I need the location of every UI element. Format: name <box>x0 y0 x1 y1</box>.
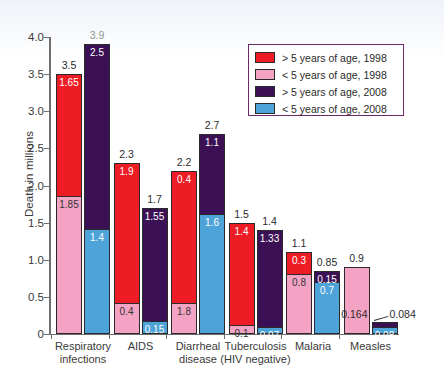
y-tick-label: 2.0 <box>6 180 44 192</box>
y-tick-label: 3.0 <box>6 105 44 117</box>
bar-1998-1-bar[interactable]: 1.90.4 <box>114 163 140 334</box>
segment-value-label: 1.1 <box>200 137 224 148</box>
legend-swatch-icon <box>255 86 275 97</box>
y-axis-ticks: 4.03.53.02.52.01.51.00.50 <box>0 0 44 392</box>
legend-swatch-icon <box>255 69 275 80</box>
y-tick-label: 0 <box>6 328 44 340</box>
segment-value-label: 0.15 <box>143 324 167 335</box>
bar-1998-3-bar[interactable]: 1.40.1 <box>229 223 255 334</box>
bar-1998-4-segment: 0.8 <box>287 275 311 333</box>
measles-2008-total-label: 0.164 <box>341 308 367 320</box>
legend: > 5 years of age, 1998< 5 years of age, … <box>248 44 404 116</box>
bar-total-label: 2.7 <box>205 119 220 131</box>
bar-1998-4-bar[interactable]: 0.30.8 <box>286 252 312 334</box>
legend-item[interactable]: > 5 years of age, 2008 <box>255 84 397 99</box>
y-tick-label: 0.5 <box>6 291 44 303</box>
bar-1998-1-segment: 0.4 <box>115 304 139 333</box>
bar-2008-4-segment: 0.7 <box>315 283 339 333</box>
measles-2008-upper-annotation: 0.084 <box>390 308 416 320</box>
x-tick-mark <box>281 334 282 339</box>
legend-swatch-icon <box>255 52 275 63</box>
bar-total-label: 2.2 <box>177 156 192 168</box>
y-tick-label: 4.0 <box>6 31 44 43</box>
bar-2008-0-segment: 1.4 <box>85 230 109 333</box>
legend-item[interactable]: < 5 years of age, 2008 <box>255 101 397 116</box>
bar-1998-2-segment: 0.4 <box>172 172 196 304</box>
bar-1998-0-bar[interactable]: 1.651.85 <box>56 74 82 334</box>
bar-total-label: 0.85 <box>317 256 337 268</box>
bar-1998-3-segment: 0.1 <box>230 326 254 333</box>
bar-2008-2-segment: 1.1 <box>200 135 224 216</box>
segment-value-label: 0.4 <box>115 306 139 317</box>
bar-1998-3-segment: 1.4 <box>230 224 254 326</box>
x-tick-mark <box>109 334 110 339</box>
y-tick-label: 1.5 <box>6 217 44 229</box>
legend-item-label: > 5 years of age, 2008 <box>282 86 387 98</box>
segment-value-label: 1.6 <box>200 217 224 228</box>
bar-2008-4-segment: 0.15 <box>315 272 339 283</box>
bar-2008-3-bar[interactable]: 1.330.07 <box>257 230 283 334</box>
legend-item-label: > 5 years of age, 1998 <box>282 52 387 64</box>
segment-value-label: 1.8 <box>172 306 196 317</box>
bar-total-label: 1.1 <box>292 237 307 249</box>
legend-item-label: < 5 years of age, 2008 <box>282 103 387 115</box>
y-tick-label: 1.0 <box>6 254 44 266</box>
bar-2008-1-bar[interactable]: 1.550.15 <box>142 208 168 334</box>
x-tick-mark <box>51 334 52 339</box>
bar-2008-5-bar[interactable]: 0.08 <box>372 322 398 334</box>
bar-1998-0-segment: 1.85 <box>57 197 81 333</box>
segment-value-label: 0.7 <box>315 285 339 296</box>
bar-2008-2-segment: 1.6 <box>200 215 224 333</box>
bar-1998-2-segment: 1.8 <box>172 304 196 333</box>
segment-value-label: 1.65 <box>57 77 81 88</box>
segment-value-label: 1.4 <box>85 232 109 243</box>
segment-value-label: 0.8 <box>287 277 311 288</box>
y-tick-label: 3.5 <box>6 68 44 80</box>
bar-total-label: 1.7 <box>147 193 162 205</box>
bar-2008-3-segment: 1.33 <box>258 231 282 328</box>
x-tick-mark <box>166 334 167 339</box>
x-tick-mark <box>339 334 340 339</box>
bar-2008-1-segment: 1.55 <box>143 209 167 322</box>
y-tick-label: 2.5 <box>6 142 44 154</box>
bar-1998-2-bar[interactable]: 0.41.8 <box>171 171 197 334</box>
segment-value-label: 1.85 <box>57 199 81 210</box>
segment-value-label: 0.1 <box>230 328 254 339</box>
infectious-disease-deaths-chart: Death in millions 4.03.53.02.52.01.51.00… <box>0 0 444 392</box>
legend-item[interactable]: < 5 years of age, 1998 <box>255 67 397 82</box>
segment-value-label: 2.5 <box>85 47 109 58</box>
legend-item[interactable]: > 5 years of age, 1998 <box>255 50 397 65</box>
measles-annotation-leader-line <box>373 316 388 321</box>
bar-2008-3-segment: 0.07 <box>258 328 282 333</box>
bar-1998-0-segment: 1.65 <box>57 75 81 197</box>
segment-value-label: 0.4 <box>172 174 196 185</box>
bar-2008-1-segment: 0.15 <box>143 322 167 333</box>
bar-1998-5-bar[interactable] <box>344 267 370 334</box>
bar-1998-1-segment: 1.9 <box>115 164 139 303</box>
bar-1998-5-segment <box>345 268 369 333</box>
x-category-label: Measles <box>331 340 411 353</box>
bar-2008-0-bar[interactable]: 2.51.4 <box>84 44 110 334</box>
bar-total-label: 1.5 <box>234 208 249 220</box>
x-tick-mark <box>224 334 225 339</box>
segment-value-label: 0.3 <box>287 255 311 266</box>
segment-value-label: 1.33 <box>258 233 282 244</box>
bar-total-label: 3.5 <box>62 59 77 71</box>
bar-2008-4-bar[interactable]: 0.150.7 <box>314 271 340 334</box>
bar-total-label: 0.9 <box>349 252 364 264</box>
bar-2008-2-bar[interactable]: 1.11.6 <box>199 134 225 334</box>
bar-total-label: 1.4 <box>262 215 277 227</box>
bar-1998-4-segment: 0.3 <box>287 253 311 275</box>
bar-total-label: 2.3 <box>119 148 134 160</box>
segment-value-label: 1.55 <box>143 211 167 222</box>
legend-swatch-icon <box>255 103 275 114</box>
segment-value-label: 1.4 <box>230 226 254 237</box>
bar-2008-5-segment: 0.08 <box>373 328 397 333</box>
legend-item-label: < 5 years of age, 1998 <box>282 69 387 81</box>
bar-total-label: 3.9 <box>90 29 105 41</box>
bar-2008-0-segment: 2.5 <box>85 45 109 229</box>
segment-value-label: 1.9 <box>115 166 139 177</box>
